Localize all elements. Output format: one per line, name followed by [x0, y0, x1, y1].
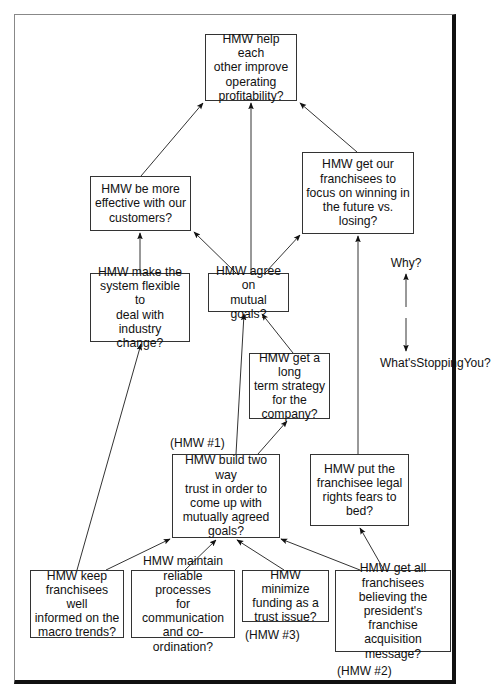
node-text: HMW get ourfranchisees tofocus on winnin… [306, 157, 410, 228]
node-text-line: HMW keep [34, 569, 120, 583]
node-text-line: deal with industry [94, 308, 186, 336]
annotation-hmw1: (HMW #1) [170, 436, 225, 450]
node-text-line: focus on winning in [306, 186, 410, 200]
node-text-line: profitability? [209, 89, 293, 103]
node-text: HMW maintainreliable processesfor commun… [135, 554, 231, 653]
node-text-line: You? [464, 356, 491, 370]
node-text: HMW agree onmutual goals? [212, 264, 285, 321]
node-text-line: franchisee legal [317, 476, 402, 490]
node-text-line: HMW be more [95, 182, 186, 196]
node-text-line: rights fears to [317, 490, 402, 504]
node-long-term-strategy: HMW get a longterm strategyfor thecompan… [249, 353, 330, 419]
node-legal-rights-fears: HMW put thefranchisee legalrights fears … [310, 454, 409, 526]
node-text-line: bed? [317, 504, 402, 518]
node-text: HMW get a longterm strategyfor thecompan… [253, 351, 326, 422]
node-text-line: What's [380, 356, 416, 370]
arrow-n11-to-n7 [237, 540, 284, 570]
node-text-line: losing? [306, 214, 410, 228]
node-text: HMW put thefranchisee legalrights fears … [317, 462, 402, 519]
arrow-n7-to-n5 [236, 314, 244, 454]
node-text-line: funding as a [246, 596, 325, 610]
node-text-line: HMW get a long [253, 351, 326, 379]
node-improve-profitability: HMW help eachother improveoperatingprofi… [205, 34, 297, 101]
node-text-line: trust issue? [246, 610, 325, 624]
node-text-line: informed on the [34, 611, 120, 625]
node-text-line: HMW minimize [246, 568, 325, 596]
node-text: HMW minimizefunding as atrust issue? [246, 568, 325, 625]
node-text: HMW get allfranchiseesbelieving thepresi… [339, 561, 447, 660]
node-text: HMW be moreeffective with ourcustomers? [95, 182, 186, 225]
node-text-line: HMW agree on [212, 264, 285, 292]
node-text: HMW help eachother improveoperatingprofi… [209, 32, 293, 103]
node-text: What'sStoppingYou? [380, 356, 432, 370]
node-text-line: HMW build two way [176, 453, 276, 481]
node-text: HMW keepfranchisees wellinformed on them… [34, 569, 120, 640]
node-franchise-acquisition-message: HMW get allfranchiseesbelieving thepresi… [335, 570, 451, 652]
node-text-line: and co-ordination? [135, 625, 231, 653]
node-text-line: believing the [339, 590, 447, 604]
node-text-line: HMW maintain [135, 554, 231, 568]
node-text-line: come up with [176, 496, 276, 510]
annotation-hmw3: (HMW #3) [245, 628, 300, 642]
node-system-flexible: HMW make thesystem flexible todeal with … [90, 273, 190, 342]
node-text-line: HMW get all [339, 561, 447, 575]
node-text-line: for communication [135, 597, 231, 625]
node-text-line: mutually agreed [176, 510, 276, 524]
node-text-line: term strategy [253, 379, 326, 393]
node-text: HMW build two waytrust in order tocome u… [176, 453, 276, 538]
node-text-line: company? [253, 407, 326, 421]
node-text-line: HMW get our [306, 157, 410, 171]
node-text-line: president's franchise [339, 604, 447, 632]
arrow-n7-to-n6 [258, 421, 287, 454]
legend-stopping-label: What'sStoppingYou? [380, 356, 432, 370]
annotation-hmw2: (HMW #2) [337, 664, 392, 678]
node-text-line: acquisition message? [339, 632, 447, 660]
node-build-two-way-trust: HMW build two waytrust in order tocome u… [172, 454, 280, 538]
legend-why-label: Why? [389, 256, 423, 270]
node-reliable-processes: HMW maintainreliable processesfor commun… [131, 570, 235, 638]
node-text-line: Stopping [416, 356, 463, 370]
node-text-line: effective with our [95, 196, 186, 210]
node-text-line: change? [94, 336, 186, 350]
node-minimize-funding: HMW minimizefunding as atrust issue? [242, 570, 329, 622]
arrow-n3-to-n1 [300, 103, 357, 152]
node-keep-franchisees-informed: HMW keepfranchisees wellinformed on them… [30, 570, 124, 638]
node-text-line: the future vs. [306, 200, 410, 214]
node-text-line: HMW make the [94, 265, 186, 279]
node-text-line: goals? [176, 524, 276, 538]
node-text-line: macro trends? [34, 625, 120, 639]
node-text-line: customers? [95, 211, 186, 225]
node-text-line: trust in order to [176, 482, 276, 496]
node-text-line: operating [209, 75, 293, 89]
arrow-n2-to-n1 [141, 103, 203, 176]
node-text-line: franchisees to [306, 172, 410, 186]
node-text: HMW make thesystem flexible todeal with … [94, 265, 186, 350]
node-text-line: system flexible to [94, 279, 186, 307]
node-text-line: franchisees [339, 576, 447, 590]
node-text-line: reliable processes [135, 569, 231, 597]
node-effective-with-customers: HMW be moreeffective with ourcustomers? [90, 176, 191, 231]
node-text-line: HMW put the [317, 462, 402, 476]
node-agree-mutual-goals: HMW agree onmutual goals? [208, 273, 289, 312]
node-text-line: HMW help each [209, 32, 293, 60]
node-text-line: franchisees well [34, 583, 120, 611]
node-text-line: other improve [209, 60, 293, 74]
arrow-n9-to-n4 [77, 344, 141, 570]
node-franchisees-focus-on-winning: HMW get ourfranchisees tofocus on winnin… [302, 152, 414, 234]
node-text-line: for the [253, 393, 326, 407]
node-text-line: mutual goals? [212, 293, 285, 321]
